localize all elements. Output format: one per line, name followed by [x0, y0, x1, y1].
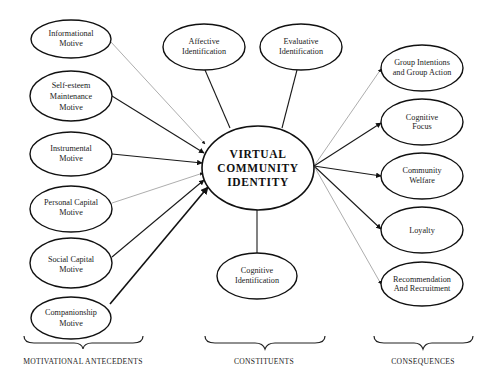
brace-consequences	[374, 336, 473, 349]
brace-constituents	[205, 336, 325, 349]
node-label: Group Intentions	[394, 58, 450, 67]
node-label: Focus	[412, 122, 432, 131]
edge-cognitive-focus	[314, 123, 381, 166]
node-label: Instrumental	[50, 144, 92, 153]
node-label: Social Capital	[48, 255, 95, 264]
consequence-recommendation: Recommendation And Recruitment	[381, 262, 463, 306]
node-label: Motive	[59, 103, 83, 112]
antecedent-informational: Informational Motive	[31, 20, 111, 58]
constituent-evaluative: Evaluative Identification	[260, 24, 342, 70]
node-label: Motive	[59, 265, 83, 274]
edge-community-welfare	[314, 166, 381, 176]
node-label: Motive	[59, 39, 83, 48]
node-label: Informational	[48, 29, 94, 38]
edge-recommendation	[314, 166, 381, 284]
node-label: Companionship	[45, 308, 97, 317]
node-label: Motive	[59, 208, 83, 217]
center-line-2: COMMUNITY	[217, 162, 299, 174]
constituent-affective: Affective Identification	[163, 24, 245, 70]
node-label: and Group Action	[393, 68, 452, 77]
antecedent-instrumental: Instrumental Motive	[30, 132, 112, 176]
consequence-loyalty: Loyalty	[381, 207, 463, 253]
edge-group-intentions	[314, 69, 381, 166]
node-label: Motive	[59, 154, 83, 163]
edge-instrumental	[112, 154, 202, 163]
node-label: Community	[402, 166, 442, 175]
node-label: Welfare	[409, 176, 435, 185]
node-label: Cognitive	[241, 266, 274, 275]
antecedent-social-capital: Social Capital Motive	[30, 238, 112, 288]
node-label: Affective	[189, 37, 220, 46]
label-motivational-antecedents: MOTIVATIONAL ANTECEDENTS	[23, 357, 143, 366]
constituent-cognitive: Cognitive Identification	[217, 253, 297, 299]
antecedent-personal-capital: Personal Capital Motive	[30, 186, 112, 232]
consequence-group-intentions: Group Intentions and Group Action	[381, 45, 463, 91]
consequence-community-welfare: Community Welfare	[381, 153, 463, 199]
node-label: Identification	[279, 47, 323, 56]
center-line-3: IDENTITY	[227, 176, 289, 188]
node-label: Maintenance	[50, 92, 93, 101]
node-label: Cognitive	[406, 113, 439, 122]
edge-self-esteem	[112, 96, 204, 153]
consequence-cognitive-focus: Cognitive Focus	[381, 99, 463, 145]
label-consequences: CONSEQUENCES	[391, 357, 455, 366]
center-line-1: VIRTUAL	[230, 148, 287, 160]
node-label: Identification	[182, 47, 226, 56]
node-label: Recommendation	[393, 275, 451, 284]
edge-loyalty	[314, 166, 381, 229]
vci-diagram: VIRTUAL COMMUNITY IDENTITY Informational…	[0, 0, 499, 386]
node-label: Motive	[59, 319, 83, 328]
node-label: And Recruitment	[394, 284, 451, 293]
consequence-edges	[314, 69, 381, 284]
node-label: Loyalty	[409, 226, 435, 235]
center-node: VIRTUAL COMMUNITY IDENTITY	[202, 126, 314, 210]
node-label: Personal Capital	[44, 198, 99, 207]
node-label: Identification	[235, 276, 279, 285]
label-constituents: CONSTITUENTS	[234, 357, 294, 366]
edge-companionship	[110, 187, 208, 304]
node-label: Evaluative	[283, 37, 318, 46]
antecedent-companionship: Companionship Motive	[31, 297, 111, 339]
edge-affective	[205, 70, 230, 128]
antecedent-edges	[110, 42, 208, 304]
antecedent-self-esteem: Self-esteem Maintenance Motive	[30, 71, 112, 121]
edge-evaluative	[282, 70, 297, 128]
edge-personal-capital	[112, 173, 203, 203]
node-label: Self-esteem	[52, 81, 91, 90]
